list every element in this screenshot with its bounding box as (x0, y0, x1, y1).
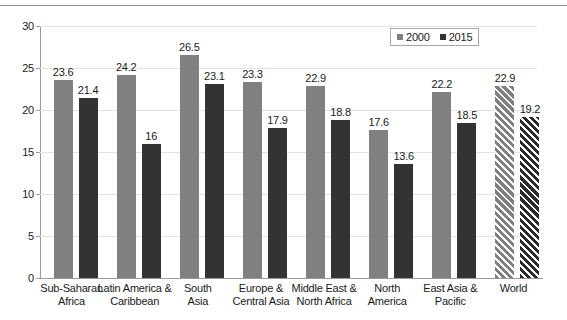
legend-item-2015[interactable]: 2015 (440, 31, 473, 43)
bar-value-label: 18.8 (330, 106, 351, 118)
y-tick-label: 5 (28, 230, 34, 242)
bar-group: 23.621.4 (54, 26, 98, 278)
bar-value-label: 22.9 (495, 72, 516, 84)
bar-group: 22.919.2 (495, 26, 539, 278)
bar-group: 22.218.5 (432, 26, 476, 278)
bar-value-label: 23.6 (53, 66, 74, 78)
y-tick-mark (36, 236, 40, 237)
bar-group: 22.918.8 (306, 26, 350, 278)
x-axis-label-line: World (474, 282, 553, 295)
legend-item-2000[interactable]: 2000 (397, 31, 430, 43)
bar-group: 17.613.6 (369, 26, 413, 278)
bar-value-label: 16 (145, 130, 157, 142)
bar-value-label: 22.9 (305, 72, 326, 84)
top-divider-rule (0, 5, 567, 6)
y-tick-mark (36, 68, 40, 69)
x-axis-label: World (474, 282, 553, 295)
bar-value-label: 26.5 (179, 41, 200, 53)
bar-value-label: 17.6 (368, 116, 389, 128)
legend-label: 2000 (406, 31, 430, 43)
bar-2000: 23.3 (243, 82, 262, 278)
bar-value-label: 23.3 (242, 68, 263, 80)
legend-swatch-icon (440, 34, 446, 40)
bar-2015: 17.9 (268, 128, 287, 278)
bar-2015: 19.2 (520, 117, 539, 278)
bar-value-label: 18.5 (457, 109, 478, 121)
bar-2015: 18.5 (457, 123, 476, 278)
bar-group: 23.317.9 (243, 26, 287, 278)
bar-2000: 22.2 (432, 92, 451, 278)
bar-group: 26.523.1 (180, 26, 224, 278)
bar-2015: 16 (142, 144, 161, 278)
bar-value-label: 13.6 (393, 150, 414, 162)
bar-value-label: 17.9 (267, 114, 288, 126)
y-tick-label: 20 (22, 104, 34, 116)
y-tick-label: 30 (22, 20, 34, 32)
bar-2015: 13.6 (394, 164, 413, 278)
x-axis-line (40, 278, 543, 279)
bar-2015: 18.8 (331, 120, 350, 278)
y-tick-label: 15 (22, 146, 34, 158)
bar-value-label: 22.2 (432, 78, 453, 90)
bar-value-label: 19.2 (520, 103, 541, 115)
bar-value-label: 24.2 (116, 61, 137, 73)
bar-2000: 17.6 (369, 130, 388, 278)
y-tick-mark (36, 110, 40, 111)
bar-value-label: 23.1 (204, 70, 225, 82)
bar-2000: 22.9 (495, 86, 514, 278)
bar-2015: 21.4 (79, 98, 98, 278)
y-tick-mark (36, 194, 40, 195)
bar-2000: 26.5 (180, 55, 199, 278)
chart-legend: 20002015 (390, 28, 479, 46)
bar-2015: 23.1 (205, 84, 224, 278)
bar-2000: 22.9 (306, 86, 325, 278)
bar-value-label: 21.4 (78, 84, 99, 96)
legend-swatch-icon (397, 34, 403, 40)
y-tick-mark (36, 152, 40, 153)
legend-label: 2015 (449, 31, 473, 43)
y-tick-mark (36, 26, 40, 27)
y-tick-label: 25 (22, 62, 34, 74)
bar-2000: 24.2 (117, 75, 136, 278)
plot-area: 051015202530 23.621.424.21626.523.123.31… (40, 26, 545, 278)
y-tick-mark (36, 278, 40, 279)
bar-group: 24.216 (117, 26, 161, 278)
bar-chart-screenshot: 051015202530 23.621.424.21626.523.123.31… (0, 0, 567, 320)
bar-2000: 23.6 (54, 80, 73, 278)
y-tick-label: 10 (22, 188, 34, 200)
x-axis-label-line: Pacific (411, 295, 490, 308)
